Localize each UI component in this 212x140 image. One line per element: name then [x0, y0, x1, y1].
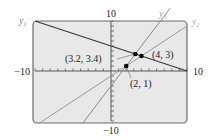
y-max-label: 10	[106, 8, 116, 19]
x-max-label: 10	[193, 66, 203, 77]
series-label-y2: y2	[191, 16, 199, 28]
graphing-calculator-chart: 10 −10 −10 10 y1 y3 y2 (3.2, 3.4) (4, 3)…	[0, 0, 212, 140]
chart-svg: 10 −10 −10 10 y1 y3 y2 (3.2, 3.4) (4, 3)…	[0, 0, 212, 140]
y-min-label: −10	[103, 125, 119, 136]
x-min-label: −10	[14, 66, 30, 77]
point-2-1	[124, 64, 129, 69]
point-3.2-3.4	[133, 52, 138, 57]
point-4-3	[139, 54, 144, 59]
series-label-y1: y1	[18, 15, 26, 27]
plot-frame	[33, 21, 187, 123]
point-label-4-3: (4, 3)	[152, 49, 174, 61]
series-label-y3: y3	[158, 8, 166, 20]
point-label-2-1: (2, 1)	[130, 78, 152, 90]
point-label-3.2-3.4: (3.2, 3.4)	[65, 53, 102, 65]
